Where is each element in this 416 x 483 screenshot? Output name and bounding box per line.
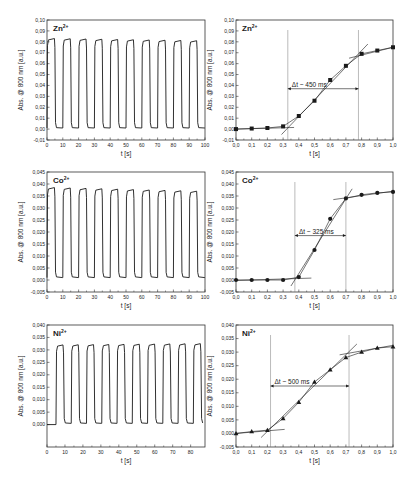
square-marker: [391, 45, 395, 49]
figure-svg: 0102030405060708090100-0,010,000,010,020…: [0, 0, 416, 483]
y-tick-label: 0,08: [224, 39, 234, 45]
triangle-marker: [391, 344, 396, 348]
charge-superscript: 2+: [253, 175, 259, 181]
y-tick-label: 0,03: [35, 93, 45, 99]
charge-superscript: 2+: [250, 328, 256, 334]
circle-marker: [391, 190, 395, 194]
fit-line: [261, 344, 357, 438]
circle-marker: [281, 278, 285, 282]
x-tick-label: 80: [188, 449, 194, 455]
y-tick-label: 0,10: [35, 17, 45, 23]
x-tick-label: 100: [201, 294, 210, 300]
x-tick-label: 0: [46, 142, 49, 148]
y-tick-label: 0,010: [32, 396, 45, 402]
triangle-marker: [312, 379, 317, 383]
y-tick-label: 0,030: [221, 349, 234, 355]
y-tick-label: 0,09: [224, 28, 234, 34]
x-tick-label: 30: [92, 142, 98, 148]
y-tick-label: 0,10: [224, 17, 234, 23]
y-tick-label: 0,025: [221, 217, 234, 223]
y-axis-title: Abs. @ 800 nm [a.u.]: [206, 49, 214, 110]
panel-ion-label: Co2+: [53, 175, 69, 186]
x-tick-label: 70: [155, 142, 161, 148]
y-tick-label: 0,030: [32, 205, 45, 211]
arrowhead-left-icon: [288, 87, 291, 90]
square-marker: [328, 78, 332, 82]
fit-line: [282, 44, 368, 135]
x-tick-label: 0,1: [248, 449, 255, 455]
x-tick-label: 0,3: [280, 142, 287, 148]
y-tick-label: 0,020: [221, 376, 234, 382]
y-tick-label: 0,035: [221, 193, 234, 199]
y-tick-label: -0,01: [223, 137, 235, 143]
plot-frame: [47, 325, 205, 447]
x-tick-label: 30: [92, 294, 98, 300]
charge-superscript: 2+: [63, 23, 69, 29]
y-tick-label: 0,04: [224, 82, 234, 88]
x-tick-label: 0,1: [248, 142, 255, 148]
x-tick-label: 0: [46, 449, 49, 455]
y-tick-label: 0,025: [32, 217, 45, 223]
y-axis-title: Abs. @ 800 nm [a.u.]: [206, 201, 214, 262]
x-tick-label: 40: [116, 449, 122, 455]
circle-marker: [312, 248, 316, 252]
data-line: [236, 347, 393, 434]
y-tick-label: 0,08: [35, 39, 45, 45]
square-marker: [297, 114, 301, 118]
y-tick-label: 0,000: [221, 430, 234, 436]
x-tick-label: 60: [152, 449, 158, 455]
x-tick-label: 90: [186, 142, 192, 148]
x-tick-label: 40: [107, 294, 113, 300]
y-tick-label: 0,000: [32, 421, 45, 427]
x-tick-label: 0,4: [295, 449, 302, 455]
y-tick-label: 0,005: [221, 265, 234, 271]
chart-panel-ni-zoom: 0,00,10,20,30,40,50,60,70,80,91,0-0,0050…: [206, 322, 397, 465]
x-tick-label: 0,5: [311, 142, 318, 148]
x-tick-label: 1,0: [390, 294, 397, 300]
y-tick-label: 0,040: [32, 181, 45, 187]
x-tick-label: 0,7: [342, 294, 349, 300]
y-axis-title: Abs. @ 800 nm [a.u.]: [17, 355, 25, 416]
y-tick-label: -0,01: [34, 137, 46, 143]
x-tick-label: 0,5: [311, 449, 318, 455]
y-tick-label: 0,035: [32, 334, 45, 340]
x-tick-label: 0,0: [233, 294, 240, 300]
x-tick-label: 20: [80, 449, 86, 455]
x-tick-label: 50: [134, 449, 140, 455]
x-tick-label: 0,9: [374, 142, 381, 148]
y-tick-label: 0,07: [224, 49, 234, 55]
circle-marker: [375, 191, 379, 195]
x-tick-label: 0,4: [295, 294, 302, 300]
x-tick-label: 0,0: [233, 449, 240, 455]
y-axis-title: Abs. @ 800 nm [a.u.]: [17, 201, 25, 262]
panel-ion-label: Co2+: [242, 175, 258, 186]
x-tick-label: 40: [107, 142, 113, 148]
y-tick-label: 0,010: [32, 253, 45, 259]
y-axis-title: Abs. @ 800 nm [a.u.]: [17, 49, 25, 110]
y-tick-label: 0,01: [35, 115, 45, 121]
y-axis-title: Abs. @ 800 nm [a.u.]: [206, 355, 214, 416]
x-tick-label: 0,6: [327, 449, 334, 455]
circle-marker: [297, 275, 301, 279]
arrowhead-right-icon: [343, 234, 346, 237]
x-tick-label: 0,1: [248, 294, 255, 300]
y-tick-label: -0,005: [220, 444, 234, 450]
y-tick-label: 0,005: [32, 265, 45, 271]
y-tick-label: 0,040: [221, 322, 234, 328]
x-tick-label: 0,3: [280, 449, 287, 455]
chart-panel-zn-cycles: 0102030405060708090100-0,010,000,010,020…: [17, 17, 209, 158]
y-tick-label: 0,045: [221, 169, 234, 175]
y-tick-label: 0,00: [224, 126, 234, 132]
panel-ion-label: Zn2+: [53, 23, 69, 34]
chart-panel-co-zoom: 0,00,10,20,30,40,50,60,70,80,91,0-0,0050…: [206, 169, 397, 310]
y-tick-label: 0,04: [35, 82, 45, 88]
chart-panel-ni-cycles: 010203040506070800,0000,0050,0100,0150,0…: [17, 322, 205, 465]
x-tick-label: 20: [76, 142, 82, 148]
x-tick-label: 80: [171, 294, 177, 300]
x-tick-label: 0,4: [295, 142, 302, 148]
x-tick-label: 30: [98, 449, 104, 455]
delta-t-annotation: Δt ~ 325 ms: [299, 228, 335, 235]
y-tick-label: 0,020: [32, 229, 45, 235]
y-tick-label: 0,06: [224, 60, 234, 66]
arrowhead-right-icon: [346, 385, 349, 388]
